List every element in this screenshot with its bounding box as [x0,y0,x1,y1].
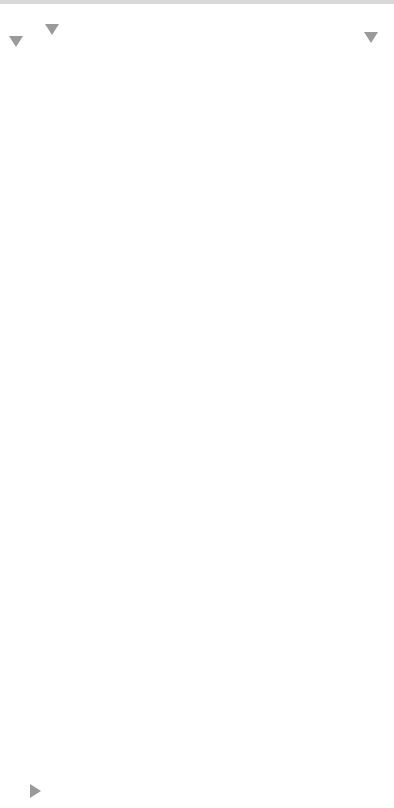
top-bar [0,0,394,4]
date-arrow-icon [30,784,41,798]
paper-arrow-icon [45,24,59,35]
percentage-arrow-icon [364,32,378,43]
total-marks-arrow-icon [9,36,23,47]
